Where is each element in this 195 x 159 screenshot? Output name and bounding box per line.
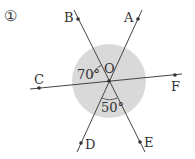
angle-label-50: 50° [101, 101, 124, 114]
point-F [173, 73, 177, 77]
label-C: C [34, 73, 44, 86]
point-A [136, 17, 140, 21]
label-B: B [64, 11, 74, 24]
label-A: A [124, 11, 133, 24]
point-O [107, 79, 111, 83]
label-F: F [171, 80, 180, 93]
point-E [138, 140, 142, 144]
point-B [76, 17, 80, 21]
label-E: E [144, 136, 154, 149]
label-O: O [104, 62, 115, 75]
label-D: D [85, 138, 95, 151]
angle-label-70: 70° [77, 68, 100, 81]
point-D [79, 141, 83, 145]
